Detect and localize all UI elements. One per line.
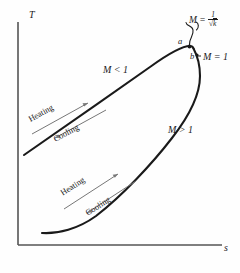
- x-axis-label: s: [224, 243, 228, 253]
- subsonic-branch-curve: [24, 46, 194, 155]
- supersonic-branch-curve: [42, 49, 200, 234]
- point-b-label: b: [190, 52, 194, 61]
- max-temp-mach-lead: M =: [189, 16, 206, 26]
- mach-fraction: 1 √k: [208, 11, 219, 28]
- sonic-point-label: M = 1: [203, 52, 228, 62]
- radical-group: √k: [209, 20, 218, 28]
- supersonic-branch-label: M > 1: [168, 125, 193, 135]
- ts-diagram-figure: T s M < 1 M > 1 M = 1 a b M = 1 √k Heati…: [0, 0, 240, 273]
- y-axis-label: T: [29, 10, 35, 20]
- diagram-canvas: [0, 0, 240, 273]
- mach-fraction-denominator: √k: [208, 20, 219, 28]
- radicand: k: [213, 18, 217, 28]
- point-a-label: a: [178, 37, 182, 46]
- point-a-marker: [188, 45, 192, 49]
- subsonic-branch-label: M < 1: [103, 65, 128, 75]
- max-temp-mach-label: M = 1 √k: [189, 12, 218, 29]
